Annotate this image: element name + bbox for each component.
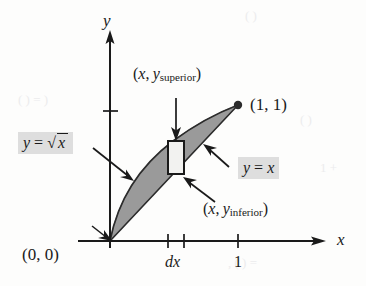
y-axis-label: y <box>103 12 111 29</box>
inferior-y: y <box>223 200 230 217</box>
inferior-close-paren: ) <box>263 200 268 217</box>
differential-strip-rect <box>168 141 184 174</box>
equation-y-equals-x: y = x <box>238 160 279 176</box>
superior-close-paren: ) <box>196 65 201 82</box>
superior-subscript: superior <box>160 71 196 83</box>
x-axis-label: x <box>337 231 345 248</box>
linear-label-arrow-shaft <box>210 150 229 167</box>
intersection-label: (1, 1) <box>250 96 287 113</box>
sqrt-eqn-operator: = <box>34 134 43 151</box>
linear-eqn-lhs: y <box>243 159 250 176</box>
origin-label: (0, 0) <box>22 246 59 263</box>
x-tick-label-1: 1 <box>234 254 242 270</box>
superior-comma: , <box>145 65 149 82</box>
origin-arrow-shaft <box>92 226 106 237</box>
equation-sqrt-x: y = √x <box>18 135 73 151</box>
inferior-comma: , <box>215 200 219 217</box>
sqrt-eqn-radicand: x <box>57 133 68 151</box>
intersection-point-dot <box>234 101 242 109</box>
radical-icon: √ <box>47 134 56 151</box>
superior-point-label: (x, ysuperior) <box>133 66 201 83</box>
inferior-point-label: (x, yinferior) <box>203 201 268 218</box>
linear-eqn-rhs: x <box>267 159 274 176</box>
figure-container: ( ) ( ) = ) ( ) 1 + , ( ) = <box>0 0 366 286</box>
inferior-subscript: inferior <box>230 206 263 218</box>
linear-eqn-operator: = <box>254 159 263 176</box>
x-tick-label-dx: dx <box>165 254 180 270</box>
superior-y: y <box>153 65 160 82</box>
